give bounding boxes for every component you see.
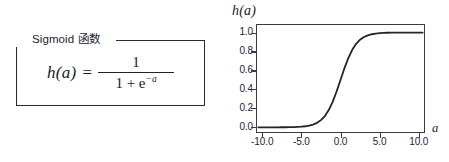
fraction-denominator: 1 + e−a [109, 73, 162, 91]
y-tick-mark [251, 33, 256, 34]
sigmoid-formula-panel: Sigmoid 函数 h(a) = 1 1 + e−a [0, 0, 225, 162]
fraction-numerator: 1 [122, 55, 150, 72]
y-tick-label: 0.4 [213, 83, 253, 94]
sigmoid-curve [258, 33, 422, 128]
y-tick-label: 1.0 [213, 26, 253, 37]
x-tick-mark [341, 133, 342, 138]
denominator-base: 1 + e [115, 75, 145, 91]
x-tick-mark [419, 133, 420, 138]
x-tick-mark [380, 133, 381, 138]
x-axis-label: a [432, 121, 438, 136]
y-tick-label: 0.8 [213, 45, 253, 56]
y-tick-mark [251, 51, 256, 52]
y-tick-mark [251, 127, 256, 128]
y-tick-mark [251, 89, 256, 90]
plot-title: h(a) [232, 3, 256, 19]
y-tick-label: 0.0 [213, 121, 253, 132]
sigmoid-curve-svg [256, 24, 425, 133]
y-tick-label: 0.2 [213, 102, 253, 113]
sigmoid-plot-panel: h(a) 0.00.20.40.60.81.0 -10.0-5.00.05.01… [225, 0, 449, 162]
equation-lhs: h(a) [47, 63, 77, 83]
y-tick-label: 0.6 [213, 64, 253, 75]
sigmoid-equation: h(a) = 1 1 + e−a [16, 40, 205, 106]
equation-equals-sign: = [81, 63, 93, 83]
x-tick-mark [301, 133, 302, 138]
equation-fraction: 1 1 + e−a [98, 55, 174, 91]
denominator-exponent: −a [146, 74, 157, 84]
y-tick-mark [251, 70, 256, 71]
y-tick-mark [251, 108, 256, 109]
x-tick-mark [262, 133, 263, 138]
